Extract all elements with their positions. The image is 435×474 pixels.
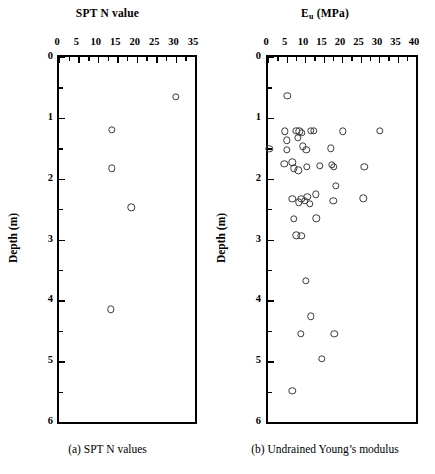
data-point [294,134,301,141]
x-tick-major-a-3 [117,57,118,63]
x-tick-label-a-5: 25 [149,36,160,47]
x-tick-major-a-1 [78,57,79,63]
x-tick-major-b-3 [324,57,325,63]
x-tick-major-b-5 [361,57,362,63]
data-point [283,137,290,144]
data-point [310,127,317,134]
data-point [298,232,305,239]
panel-b-plot-area [266,55,418,424]
y-tick-label-a-4: 4 [48,293,53,304]
y-tick-major-b-5 [268,361,274,362]
x-tick-label-b-6: 30 [372,36,383,47]
x-tick-minor-b-4 [351,57,352,61]
x-tick-major-b-1 [287,57,288,63]
data-point [360,163,367,170]
y-tick-major-b-3 [268,240,274,241]
y-tick-major-a-0 [59,57,65,58]
panel-a-y-axis-title: Depth (m) [7,203,19,273]
x-tick-label-a-1: 5 [74,36,79,47]
data-point [297,330,304,337]
y-tick-label-b-0: 0 [256,50,261,61]
panel-a-plot-area [57,55,197,424]
x-tick-minor-b-1 [296,57,297,61]
panel-spt-n-value: SPT N value 05101520253035 0123456 Depth… [0,0,215,474]
x-tick-major-b-4 [342,57,343,63]
y-tick-label-b-3: 3 [256,232,261,243]
x-tick-label-a-6: 30 [168,36,179,47]
x-tick-minor-b-2 [314,57,315,61]
y-tick-label-a-3: 3 [48,232,53,243]
y-tick-major-a-3 [59,240,65,241]
data-point [376,127,383,134]
x-tick-minor-b-5 [370,57,371,61]
x-tick-minor-b-6 [388,57,389,61]
y-tick-major-b-6 [268,422,274,423]
y-tick-label-b-1: 1 [256,110,261,121]
panel-b-title: Eu (MPa) [215,7,435,19]
x-tick-label-b-5: 25 [353,36,364,47]
x-tick-minor-b-7 [407,57,408,61]
x-tick-minor-a-4 [146,57,147,61]
panel-b-y-tick-labels: 0123456 [235,55,261,424]
data-point [318,355,325,362]
y-tick-major-a-5 [59,361,65,362]
x-tick-minor-a-3 [127,57,128,61]
y-tick-major-b-2 [268,179,274,180]
panel-b-title-subscript: u [309,12,314,21]
data-point [307,312,314,319]
data-point [128,204,135,211]
data-point [108,126,115,133]
x-tick-minor-a-1 [88,57,89,61]
data-point [332,182,339,189]
data-point [284,92,291,99]
panel-a-y-tick-labels: 0123456 [27,55,53,424]
x-tick-major-b-2 [305,57,306,63]
y-tick-minor-a-3 [59,270,63,271]
x-tick-label-b-3: 15 [316,36,327,47]
panel-a-caption: (a) SPT N values [0,443,215,455]
data-point [289,387,296,394]
data-point [330,163,337,170]
data-point [327,145,334,152]
panel-b-title-units: (MPa) [314,7,349,19]
x-tick-label-a-7: 35 [188,36,199,47]
y-tick-label-b-2: 2 [256,171,261,182]
y-tick-label-a-1: 1 [48,110,53,121]
x-tick-major-b-8 [416,57,417,63]
data-point [313,215,320,222]
x-tick-label-a-4: 20 [129,36,140,47]
data-point [306,200,313,207]
x-tick-label-b-4: 20 [335,36,346,47]
y-tick-major-a-1 [59,118,65,119]
panel-b-title-symbol: E [301,7,309,19]
y-tick-label-b-6: 6 [256,415,261,426]
x-tick-major-a-2 [98,57,99,63]
x-tick-major-a-6 [176,57,177,63]
data-point [303,146,310,153]
x-tick-minor-a-6 [185,57,186,61]
x-tick-label-b-1: 5 [282,36,287,47]
x-tick-label-b-8: 40 [409,36,420,47]
x-tick-minor-a-2 [108,57,109,61]
data-point [329,197,336,204]
y-tick-minor-a-4 [59,331,63,332]
y-tick-minor-b-5 [268,392,272,393]
x-tick-major-a-5 [156,57,157,63]
data-point [316,162,323,169]
data-point [331,330,338,337]
x-tick-label-b-7: 35 [390,36,401,47]
y-tick-minor-a-1 [59,148,63,149]
data-point [266,145,273,152]
y-tick-major-a-6 [59,422,65,423]
data-point [339,128,346,135]
x-tick-label-a-0: 0 [54,36,59,47]
y-tick-label-a-6: 6 [48,415,53,426]
x-tick-label-a-3: 15 [110,36,121,47]
x-tick-minor-a-5 [166,57,167,61]
x-tick-major-a-4 [137,57,138,63]
x-tick-label-a-2: 10 [91,36,102,47]
x-tick-major-b-6 [379,57,380,63]
panel-b-caption: (b) Undrained Young’s modulus [215,443,435,455]
y-tick-label-b-4: 4 [256,293,261,304]
y-tick-major-a-4 [59,300,65,301]
